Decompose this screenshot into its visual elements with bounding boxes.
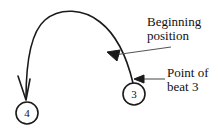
beginning-position-arrowhead [107,50,120,61]
node-beat3-label: 3 [131,88,137,100]
swing-arc-arrowhead [18,76,30,100]
point-of-beat3-label-line1: Point of [167,66,209,80]
point-of-beat3-label-line2: beat 3 [167,80,209,94]
beginning-position-label-line2: position [147,29,201,43]
point-of-beat3-arrowhead [134,75,144,83]
beginning-position-label-line1: Beginning [147,15,201,29]
beginning-position-label: Beginning position [147,15,201,43]
node-beat4-label: 4 [24,107,30,119]
point-of-beat3-label: Point of beat 3 [167,66,209,94]
